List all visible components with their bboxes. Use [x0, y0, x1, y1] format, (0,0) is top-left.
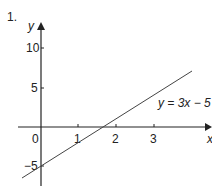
line-y-equals-3x-minus-5: [22, 71, 192, 178]
y-tick-label-5: 5: [31, 81, 38, 95]
y-tick-label-10: 10: [26, 41, 40, 55]
origin-label: 0: [32, 132, 39, 146]
x-tick-label-3: 3: [150, 132, 157, 146]
graph: 0 1 2 3 10 5 −5 y x y = 3x − 5: [0, 0, 212, 189]
x-axis-arrow-icon: [205, 123, 212, 131]
x-tick-label-2: 2: [112, 132, 119, 146]
line-label: y = 3x − 5: [157, 96, 211, 110]
y-axis-arrow-icon: [37, 22, 45, 30]
x-axis-label: x: [206, 132, 212, 146]
y-axis-label: y: [27, 19, 35, 33]
x-tick-label-1: 1: [74, 132, 81, 146]
y-tick-label-neg5: −5: [24, 159, 38, 173]
